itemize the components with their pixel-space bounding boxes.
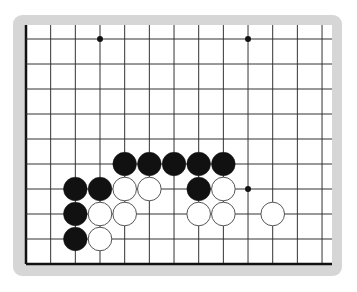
star-point-icon xyxy=(245,186,251,192)
white-stone[interactable] xyxy=(212,202,236,226)
star-point-icon xyxy=(97,36,103,42)
board-grid[interactable] xyxy=(0,0,357,292)
white-stone[interactable] xyxy=(212,177,236,201)
black-stone[interactable] xyxy=(64,177,88,201)
white-stone[interactable] xyxy=(113,202,137,226)
white-stone[interactable] xyxy=(138,177,162,201)
black-stone[interactable] xyxy=(88,177,112,201)
black-stone[interactable] xyxy=(138,152,162,176)
white-stone[interactable] xyxy=(187,202,211,226)
black-stone[interactable] xyxy=(187,152,211,176)
black-stone[interactable] xyxy=(162,152,186,176)
black-stone[interactable] xyxy=(64,202,88,226)
black-stone[interactable] xyxy=(212,152,236,176)
black-stone[interactable] xyxy=(64,227,88,251)
black-stone[interactable] xyxy=(187,177,211,201)
black-stone[interactable] xyxy=(113,152,137,176)
white-stone[interactable] xyxy=(261,202,285,226)
white-stone[interactable] xyxy=(113,177,137,201)
white-stone[interactable] xyxy=(88,202,112,226)
white-stone[interactable] xyxy=(88,227,112,251)
star-point-icon xyxy=(245,36,251,42)
